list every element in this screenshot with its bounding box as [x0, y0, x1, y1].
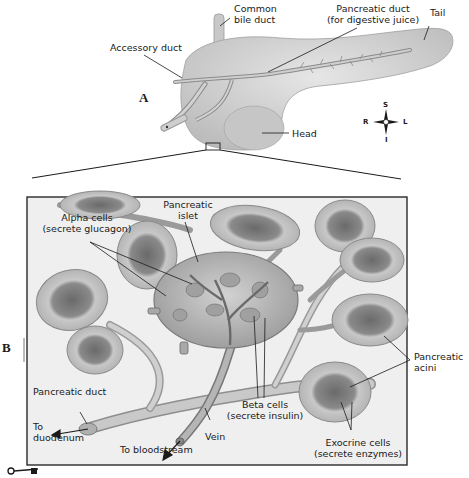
panel-a-pancreas — [32, 14, 453, 179]
label-vein: Vein — [205, 431, 225, 442]
compass-left: L — [403, 118, 407, 126]
label-line: Beta cells — [220, 399, 310, 410]
label-line: Pancreatic — [158, 199, 218, 210]
compass-icon — [373, 109, 399, 135]
label-line: (secrete insulin) — [220, 410, 310, 421]
label-to-bloodstream: To bloodstream — [120, 444, 193, 455]
label-pancreatic-duct-b: Pancreatic duct — [33, 386, 106, 397]
label-line: Pancreatic duct — [318, 3, 428, 14]
label-line: Alpha cells — [32, 212, 142, 223]
label-pancreatic-islet: Pancreatic islet — [158, 199, 218, 221]
label-line: Common — [234, 3, 277, 14]
panel-b-letter: B — [2, 340, 11, 356]
compass-inferior: I — [385, 136, 388, 144]
label-line: islet — [158, 210, 218, 221]
panel-a-letter: A — [139, 90, 148, 106]
label-exocrine-cells: Exocrine cells (secrete enzymes) — [310, 437, 406, 459]
label-accessory-duct: Accessory duct — [110, 42, 182, 53]
label-line: (for digestive juice) — [318, 14, 428, 25]
compass-superior: S — [383, 101, 388, 109]
label-pancreatic-duct-a: Pancreatic duct (for digestive juice) — [318, 3, 428, 25]
pancreas-head-shape — [224, 106, 284, 150]
compass-right: R — [363, 118, 368, 126]
label-beta-cells: Beta cells (secrete insulin) — [220, 399, 310, 421]
label-line: Pancreatic — [414, 351, 463, 362]
label-line: Exocrine cells — [310, 437, 406, 448]
label-line: To — [33, 421, 84, 432]
key-icon — [8, 468, 38, 474]
label-head: Head — [292, 128, 317, 139]
label-line: (secrete glucagon) — [32, 223, 142, 234]
label-common-bile-duct: Common bile duct — [234, 3, 277, 25]
label-line: acini — [414, 362, 463, 373]
label-tail: Tail — [430, 7, 445, 18]
label-to-duodenum: To duodenum — [33, 421, 84, 443]
label-line: bile duct — [234, 14, 277, 25]
label-pancreatic-acini: Pancreatic acini — [414, 351, 463, 373]
label-line: (secrete enzymes) — [310, 448, 406, 459]
label-alpha-cells: Alpha cells (secrete glucagon) — [32, 212, 142, 234]
pancreas-body-shape — [181, 28, 453, 150]
label-line: duodenum — [33, 432, 84, 443]
